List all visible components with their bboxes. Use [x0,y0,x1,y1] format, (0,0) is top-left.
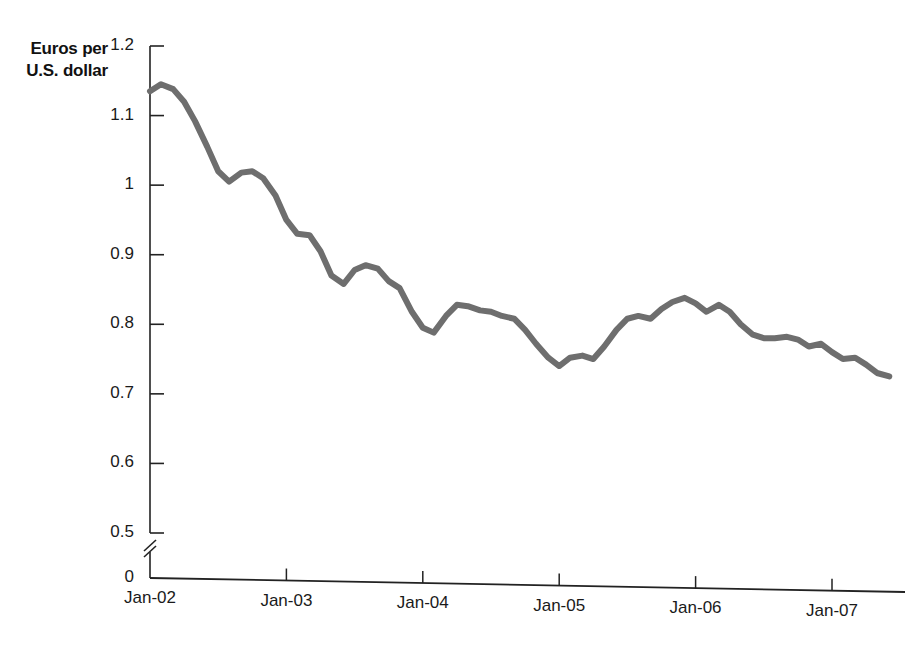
x-axis-tick-label: Jan-04 [378,593,468,613]
y-axis-ticks [150,46,164,533]
y-axis-tick-label: 1.1 [88,105,134,125]
y-axis-title-line-2: U.S. dollar [4,60,108,82]
x-axis-tick-label: Jan-05 [514,596,604,616]
y-axis-group [144,46,164,578]
x-axis-tick-label: Jan-07 [787,601,877,621]
x-axis-group [150,569,905,592]
y-axis-tick-label: 0 [88,567,134,587]
y-axis-tick-label: 0.9 [88,244,134,264]
x-axis-tick-label: Jan-03 [241,591,331,611]
x-axis-tick-label: Jan-02 [105,588,195,608]
y-axis-tick-label: 1 [88,174,134,194]
data-series-line [150,84,889,376]
y-axis-tick-label: 1.2 [88,35,134,55]
chart-figure: Euros per U.S. dollar 1.21.110.90.80.70.… [0,0,922,656]
x-axis-tick-label: Jan-06 [651,598,741,618]
y-axis-tick-label: 0.8 [88,313,134,333]
y-axis-tick-label: 0.7 [88,383,134,403]
x-axis-ticks [286,569,832,591]
y-axis-tick-label: 0.5 [88,522,134,542]
line-chart-plot [0,0,922,656]
y-axis-tick-label: 0.6 [88,452,134,472]
